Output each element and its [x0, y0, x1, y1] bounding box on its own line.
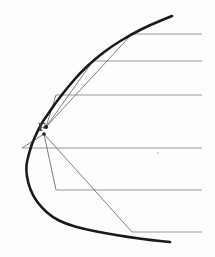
focus-point-label: F: [38, 120, 46, 133]
parabolic-reflector-figure: F: [0, 0, 215, 257]
scan-speck: [157, 152, 159, 154]
incoming-rays-group: [22, 34, 202, 232]
reflected-ray-line: [46, 61, 93, 127]
figure-canvas: [0, 0, 215, 257]
parabola-curve-group: [26, 16, 172, 242]
reflected-ray-line: [44, 134, 56, 190]
image-artifacts-group: [157, 152, 159, 154]
reflected-ray-line: [46, 34, 132, 127]
reflected-ray-line: [44, 134, 132, 232]
parabola-curve: [26, 16, 172, 242]
